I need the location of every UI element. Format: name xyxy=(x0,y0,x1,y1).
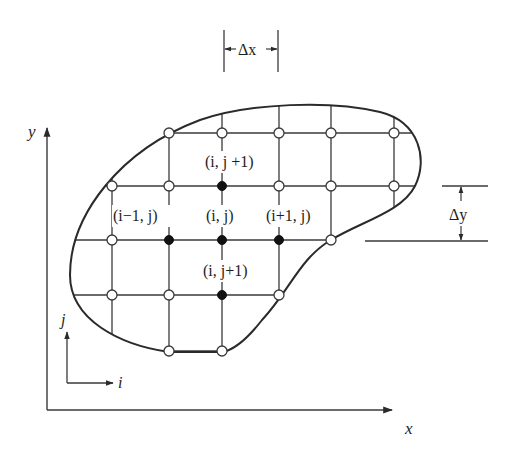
ij-index-axes: j i xyxy=(59,311,122,391)
j-axis-label: j xyxy=(59,311,66,329)
label-bottom: (i, j+1) xyxy=(203,262,248,280)
stencil-labels: (i, j +1) (i−1, j) (i, j) (i+1, j) (i, j… xyxy=(112,151,312,282)
grid-node xyxy=(326,235,336,245)
grid-node xyxy=(217,128,227,138)
grid-node xyxy=(274,181,284,191)
label-center: (i, j) xyxy=(206,207,234,225)
label-top: (i, j +1) xyxy=(205,153,254,171)
domain-boundary xyxy=(70,105,421,352)
dy-label: Δy xyxy=(449,206,467,224)
grid-node xyxy=(389,128,399,138)
stencil-node-center xyxy=(218,236,227,245)
grid-node xyxy=(107,290,117,300)
x-axis-label: x xyxy=(404,419,413,438)
dx-dimension: Δx xyxy=(224,30,278,72)
grid-node xyxy=(164,128,174,138)
grid-node xyxy=(274,290,284,300)
grid-node xyxy=(107,235,117,245)
stencil-node-top xyxy=(218,182,227,191)
grid-node xyxy=(326,128,336,138)
grid-node xyxy=(164,181,174,191)
stencil-node-bottom xyxy=(218,291,227,300)
label-left: (i−1, j) xyxy=(113,207,158,225)
grid-node xyxy=(164,346,174,356)
label-right: (i+1, j) xyxy=(266,207,311,225)
grid-lines xyxy=(60,90,440,370)
grid-node xyxy=(326,181,336,191)
grid-node xyxy=(389,181,399,191)
y-axis-label: y xyxy=(26,122,36,141)
grid-node xyxy=(274,128,284,138)
i-axis-label: i xyxy=(118,374,122,391)
grid-node xyxy=(164,290,174,300)
stencil-node-left xyxy=(165,236,174,245)
diagram-canvas: y x j i xyxy=(0,0,520,458)
grid-node xyxy=(217,346,227,356)
finite-difference-diagram: y x j i xyxy=(0,0,520,458)
stencil-node-right xyxy=(275,236,284,245)
grid-node xyxy=(107,181,117,191)
dx-label: Δx xyxy=(238,41,256,58)
